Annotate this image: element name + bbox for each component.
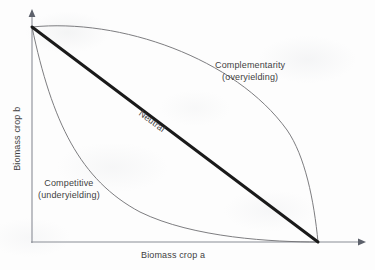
annotation-complementarity-line1: Complementarity — [215, 60, 285, 72]
annotation-competitive-line2: (underyielding) — [38, 190, 100, 202]
y-axis-arrowhead-icon — [29, 9, 36, 17]
plot-area — [0, 0, 375, 270]
x-axis-arrowhead-icon — [358, 239, 366, 246]
y-axis — [29, 9, 36, 243]
annotation-complementarity: Complementarity (overyielding) — [215, 60, 285, 83]
annotation-competitive-line1: Competitive — [38, 178, 100, 190]
y-axis-title: Biomass crop b — [12, 99, 24, 179]
figure-container: Complementarity (overyielding) Competiti… — [0, 0, 375, 270]
annotation-competitive: Competitive (underyielding) — [38, 178, 100, 201]
annotation-complementarity-line2: (overyielding) — [215, 72, 285, 84]
x-axis-title: Biomass crop a — [141, 250, 205, 262]
